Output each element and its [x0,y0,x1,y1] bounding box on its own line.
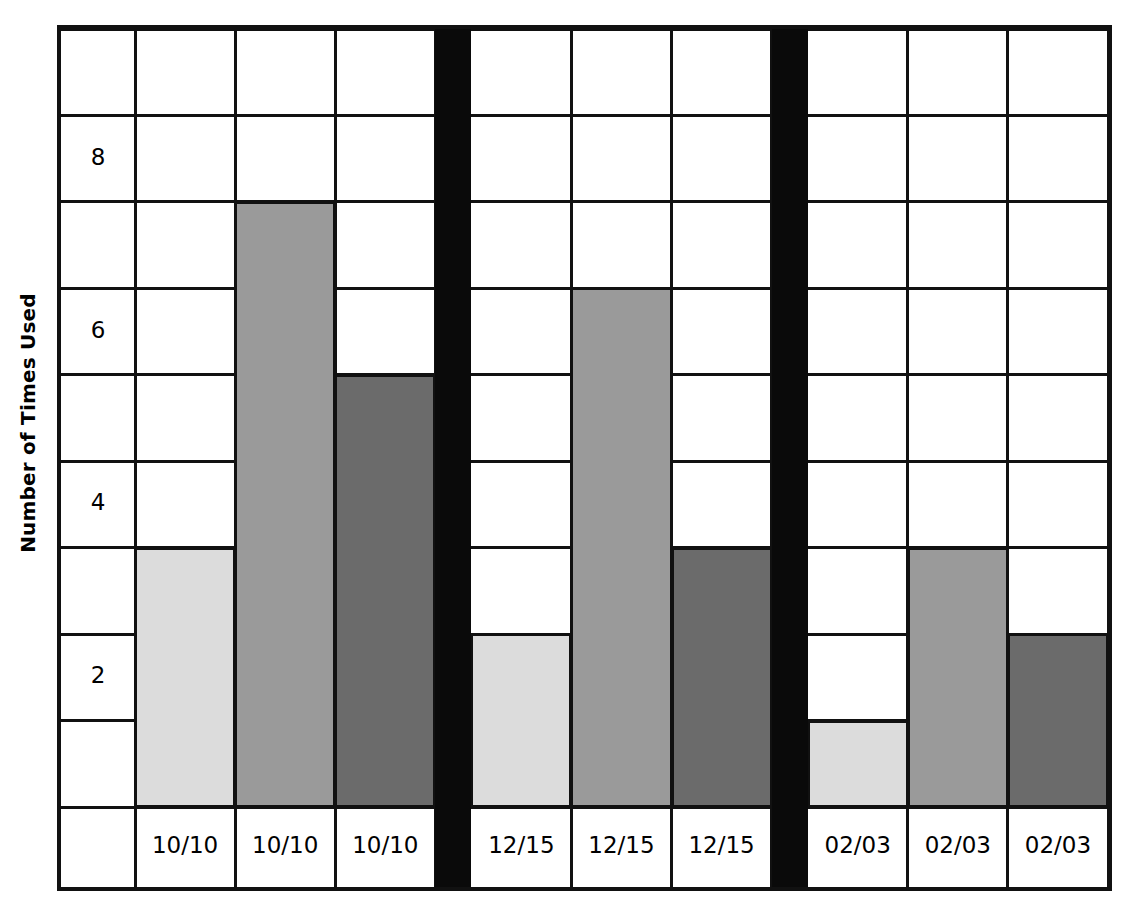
x-axis-tick-label: 12/15 [571,832,671,858]
bar [471,634,571,807]
bar [135,548,235,807]
y-axis-title-text: Number of Times Used [16,293,40,553]
group-separator [435,29,471,887]
x-axis-tick-label: 02/03 [1008,832,1108,858]
plot-area: 2468 [61,29,1108,887]
bar [235,202,335,807]
bar-chart: Number of Times Used 2468 10/1010/1010/1… [0,0,1130,917]
y-axis-tick-label: 2 [61,662,135,688]
bar [808,721,908,807]
gridline-horizontal [61,114,1108,117]
x-axis-tick-label: 12/15 [672,832,772,858]
y-axis-tick-label: 8 [61,144,135,170]
x-axis-tick-label: 02/03 [808,832,908,858]
x-axis-tick-label: 12/15 [471,832,571,858]
plot-frame: 2468 [57,25,1112,891]
y-axis-tick-label: 4 [61,489,135,515]
bar [1008,634,1108,807]
x-axis-tick-label: 10/10 [235,832,335,858]
y-axis-tick-label: 6 [61,317,135,343]
x-axis-tick-label: 10/10 [335,832,435,858]
gridline-horizontal [61,200,1108,203]
bar [908,548,1008,807]
x-axis-tick-label: 10/10 [135,832,235,858]
group-separator [772,29,808,887]
bar [672,548,772,807]
gridline-horizontal [61,28,1108,31]
y-axis-title: Number of Times Used [0,27,56,818]
bar [335,375,435,807]
bar [571,288,671,807]
x-axis-tick-label: 02/03 [908,832,1008,858]
